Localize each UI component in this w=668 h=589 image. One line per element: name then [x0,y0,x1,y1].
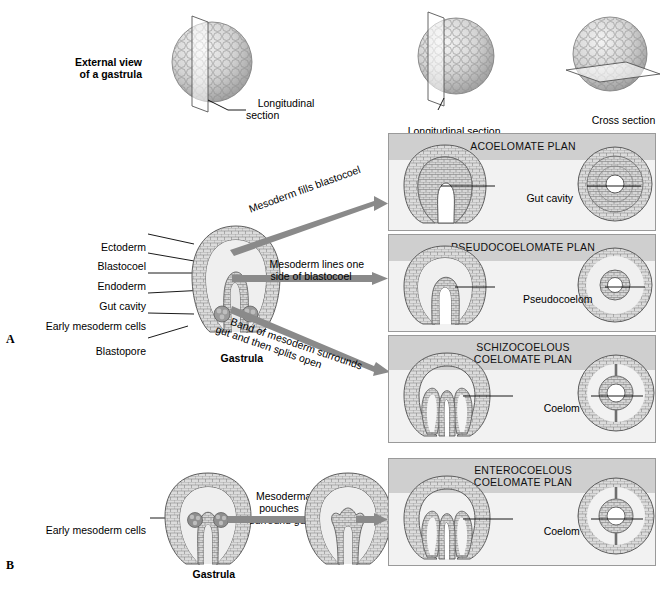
pseudocoelomate-callout-label: Pseudocoelom [489,281,609,317]
acoelomate-callout-label: Gut cavity [493,180,589,216]
gastrula-caption-b: Gastrula [148,556,268,589]
arrow-pseudocoelomate-text: Mesoderm lines one side of blastocoel [236,246,386,294]
external-gastrula-right [552,12,668,112]
figure-canvas: External view of a gastrula Longitudinal… [0,0,668,589]
longitudinal-plane-left [192,16,208,112]
plan-enterocoelous: ENTEROCOELOUS COELOMATE PLAN Coelom [388,458,656,566]
panel-b-stamp: B [6,558,14,573]
panel-b-arrow-2 [356,513,388,527]
external-gastrula-middle [398,10,518,120]
enterocoelous-callout-label: Coelom [505,513,601,549]
schizocoelous-callout-label: Coelom [505,390,601,426]
longitudinal-section-label-left: Longitudinal section [246,85,326,133]
label-early-mesoderm-cells: Early mesoderm cells [10,308,146,332]
panel-a-stamp: A [6,332,15,347]
plan-acoelomate: ACOELOMATE PLAN Gut cavity [388,133,656,231]
plan-pseudocoelomate: PSEUDOCOELOMATE PLAN Pseudocoelom [388,234,656,332]
external-view-label: External view of a gastrula [52,44,142,92]
label-blastopore: Blastopore [50,333,146,357]
label-early-mesoderm-cells-b: Early mesoderm cells [20,512,146,548]
plan-schizocoelous: SCHIZOCOELOUS COELOMATE PLAN Coe [388,335,656,443]
